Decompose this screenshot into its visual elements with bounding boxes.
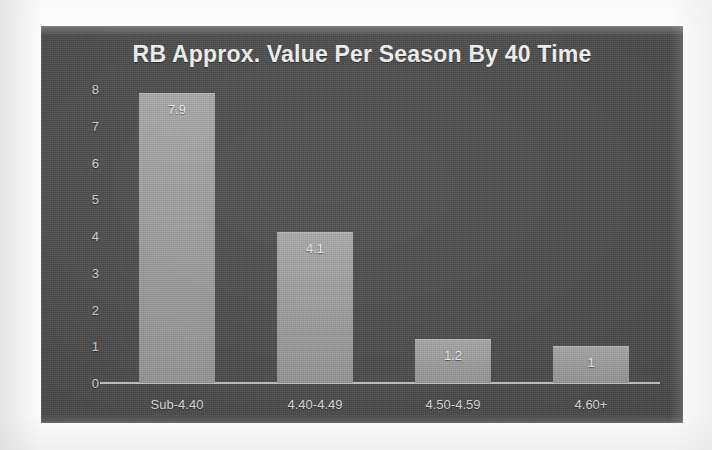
y-axis-tick-label: 3 [92, 265, 99, 280]
bar[interactable]: 7.9 [139, 93, 215, 383]
bar-value-label: 4.1 [277, 241, 353, 256]
bar[interactable]: 1 [553, 346, 629, 383]
bar-value-label: 1 [553, 355, 629, 370]
x-axis-category-label: 4.40-4.49 [288, 397, 343, 412]
bar-slot: 7.9Sub-4.40 [108, 89, 246, 383]
chart-title: RB Approx. Value Per Season By 40 Time [42, 41, 682, 68]
bar-slot: 14.60+ [522, 89, 660, 383]
y-axis-tick-label: 4 [92, 229, 99, 244]
bar-value-label: 1.2 [415, 348, 491, 363]
x-axis-category-label: 4.60+ [575, 397, 608, 412]
y-axis-tick-label: 6 [92, 155, 99, 170]
y-axis-tick-label: 0 [92, 376, 99, 391]
plot-area: 876543210 7.9Sub-4.404.14.40-4.491.24.50… [108, 89, 660, 383]
bar-slot: 4.14.40-4.49 [246, 89, 384, 383]
bar[interactable]: 1.2 [415, 339, 491, 383]
y-axis-tick-label: 1 [92, 339, 99, 354]
chart-page: RB Approx. Value Per Season By 40 Time 8… [0, 0, 712, 450]
chart-panel: RB Approx. Value Per Season By 40 Time 8… [42, 27, 682, 422]
x-axis-category-label: Sub-4.40 [151, 397, 204, 412]
y-axis-tick-label: 5 [92, 192, 99, 207]
y-axis-tick-label: 8 [92, 82, 99, 97]
y-axis-tick-label: 2 [92, 302, 99, 317]
bar-slot: 1.24.50-4.59 [384, 89, 522, 383]
y-axis-tick-label: 7 [92, 118, 99, 133]
x-axis-category-label: 4.50-4.59 [426, 397, 481, 412]
bar-value-label: 7.9 [139, 102, 215, 117]
bar[interactable]: 4.1 [277, 232, 353, 383]
